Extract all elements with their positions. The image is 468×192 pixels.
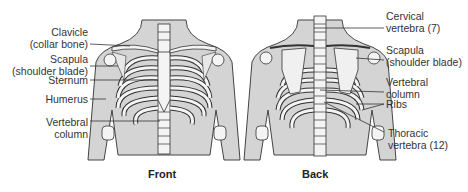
back-spine [314,16,326,156]
label-vertebral-column-back: Vertebral column [386,76,428,100]
label-sub: vertebra (12) [388,139,448,151]
sternum [158,52,170,112]
label-sub: (shoulder blade) [386,56,462,68]
label-ribs: Ribs [386,98,407,110]
label-text: Thoracic [388,127,448,139]
label-text: Scapula [386,44,462,56]
label-sub: vertebra (7) [386,22,440,34]
back-torso [244,16,396,160]
label-sternum: Sternum [48,74,88,86]
label-text: Vertebral [46,116,88,128]
label-vertebral-column-front: Vertebral column [46,116,88,140]
label-cervical-vertebra: Cervical vertebra (7) [386,10,440,34]
label-text: Sternum [48,74,88,86]
label-thoracic-vertebra: Thoracic vertebra (12) [388,127,448,151]
label-sub: (collar bone) [30,38,88,50]
label-text: Vertebral [386,76,428,88]
label-sub: column [46,128,88,140]
label-humerus: Humerus [45,93,88,105]
label-text: Humerus [45,93,88,105]
label-text: Scapula [12,53,88,65]
label-text: Cervical [386,10,440,22]
label-text: Ribs [386,98,407,110]
caption-front: Front [148,168,176,180]
label-clavicle: Clavicle (collar bone) [30,26,88,50]
front-torso [88,20,240,160]
label-scapula-back: Scapula (shoulder blade) [386,44,462,68]
caption-back: Back [302,168,328,180]
label-text: Clavicle [30,26,88,38]
